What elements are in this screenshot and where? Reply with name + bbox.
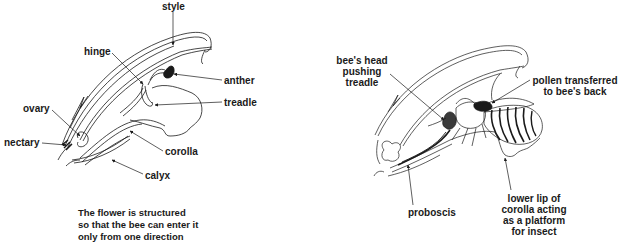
label-ovary: ovary <box>23 103 50 114</box>
label-lower-lip-line-1: lower lip of <box>494 193 574 204</box>
label-calyx: calyx <box>145 170 170 181</box>
label-bees-head-line-3: treadle <box>330 77 394 88</box>
label-nectary: nectary <box>4 137 40 148</box>
bee-drawing <box>428 98 542 146</box>
label-pollen: pollen transferred to bee's back <box>530 75 620 97</box>
right-leader-lines <box>390 74 530 205</box>
label-hinge: hinge <box>84 46 111 57</box>
label-lower-lip: lower lip of corolla acting as a platfor… <box>494 193 574 237</box>
label-anther: anther <box>224 75 255 86</box>
label-lower-lip-line-3: as a platform <box>494 215 574 226</box>
label-pollen-line-2: to bee's back <box>530 86 620 97</box>
label-bees-head-line-1: bee's head <box>330 55 394 66</box>
label-proboscis: proboscis <box>408 207 456 218</box>
label-lower-lip-line-2: corolla acting <box>494 204 574 215</box>
label-lower-lip-line-4: for insect <box>494 226 574 237</box>
label-style: style <box>162 1 185 12</box>
label-treadle: treadle <box>224 97 257 108</box>
caption-line-3: only from one direction <box>78 231 184 242</box>
caption-line-2: so that the bee can enter it <box>78 219 198 231</box>
label-corolla: corolla <box>165 146 198 157</box>
label-pollen-line-1: pollen transferred <box>530 75 620 86</box>
label-bees-head: bee's head pushing treadle <box>330 55 394 88</box>
label-bees-head-line-2: pushing <box>330 66 394 77</box>
caption-line-1: The flower is structured <box>78 207 186 219</box>
